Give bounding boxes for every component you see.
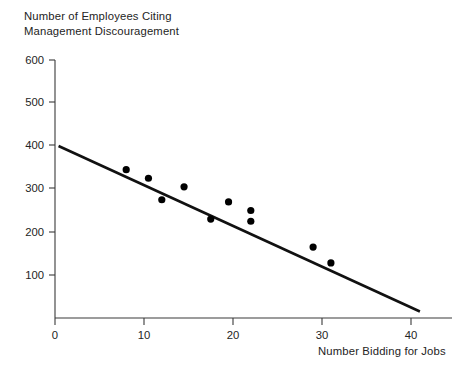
- x-axis-title: Number Bidding for Jobs: [318, 345, 446, 357]
- data-point: [247, 218, 254, 225]
- trend-line: [59, 146, 420, 312]
- data-point: [207, 216, 214, 223]
- data-point: [123, 166, 130, 173]
- x-axis-tick-labels: 0 10 20 30 40: [52, 329, 417, 341]
- data-point: [158, 196, 165, 203]
- y-tick-label: 400: [25, 139, 44, 151]
- x-axis-ticks: [55, 318, 411, 325]
- data-point: [145, 175, 152, 182]
- data-point: [327, 259, 334, 266]
- plot-canvas: 600 500 400 300 200 100 0 10 20 30 40: [0, 0, 467, 377]
- y-tick-label: 200: [25, 226, 44, 238]
- y-axis-tick-labels: 600 500 400 300 200 100: [25, 54, 44, 281]
- x-tick-label: 0: [52, 329, 58, 341]
- data-point: [180, 183, 187, 190]
- scatter-plot-figure: Number of Employees Citing Management Di…: [0, 0, 467, 377]
- y-tick-label: 100: [25, 269, 44, 281]
- x-tick-label: 30: [316, 329, 329, 341]
- y-tick-label: 300: [25, 182, 44, 194]
- x-tick-label: 40: [405, 329, 418, 341]
- scatter-points-group: [123, 166, 335, 267]
- data-point: [247, 207, 254, 214]
- x-tick-label: 20: [227, 329, 240, 341]
- y-axis-ticks: [49, 60, 55, 275]
- y-tick-label: 600: [25, 54, 44, 66]
- y-tick-label: 500: [25, 96, 44, 108]
- data-point: [310, 243, 317, 250]
- x-tick-label: 10: [138, 329, 151, 341]
- data-point: [225, 198, 232, 205]
